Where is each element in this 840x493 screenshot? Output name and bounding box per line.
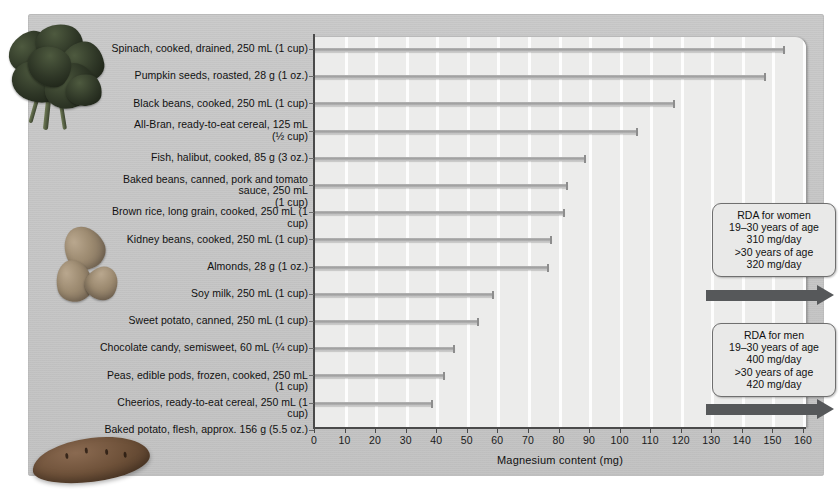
x-tick-label: 50 — [461, 434, 473, 446]
bar — [314, 374, 445, 378]
bar — [314, 48, 785, 52]
y-tick — [309, 212, 314, 213]
bar — [314, 130, 638, 134]
x-tick-label: 40 — [430, 434, 442, 446]
bar — [314, 157, 586, 161]
gridline — [497, 37, 500, 427]
x-tick — [681, 427, 682, 433]
x-tick — [497, 427, 498, 433]
bar-end-cap — [431, 400, 433, 408]
x-tick-label: 90 — [583, 434, 595, 446]
rda-women-arrow — [706, 285, 834, 305]
bar-end-cap — [764, 73, 766, 81]
category-label: Peas, edible pods, frozen, cooked, 250 m… — [96, 370, 308, 393]
x-tick-label: 160 — [794, 434, 812, 446]
x-tick — [375, 427, 376, 433]
x-tick-label: 120 — [672, 434, 690, 446]
category-label: Fish, halibut, cooked, 85 g (3 oz.) — [96, 152, 308, 164]
x-tick — [436, 427, 437, 433]
x-tick — [620, 427, 621, 433]
category-label: Almonds, 28 g (1 oz.) — [96, 261, 308, 273]
y-tick — [309, 185, 314, 186]
gridline — [559, 37, 562, 427]
bar — [314, 102, 675, 106]
y-axis-line — [313, 34, 315, 428]
y-tick — [309, 239, 314, 240]
bar — [314, 320, 479, 324]
magnesium-content-figure: 0102030405060708090100110120130140150160… — [0, 0, 840, 493]
callout-rda-women: RDA for women 19–30 years of age 310 mg/… — [712, 203, 836, 277]
bar — [314, 238, 552, 242]
category-label: Baked beans, canned, pork and tomato sau… — [96, 174, 308, 209]
x-tick — [711, 427, 712, 433]
y-tick — [309, 375, 314, 376]
x-tick — [650, 427, 651, 433]
bar-end-cap — [492, 291, 494, 299]
gridline — [681, 37, 684, 427]
x-tick — [559, 427, 560, 433]
x-tick — [772, 427, 773, 433]
category-label: Sweet potato, canned, 250 mL (1 cup) — [96, 315, 308, 327]
x-tick-label: 150 — [763, 434, 781, 446]
gridline — [345, 37, 348, 427]
x-tick — [803, 427, 804, 433]
category-label: Cheerios, ready-to-eat cereal, 250 mL (1… — [96, 397, 308, 420]
spinach-photo — [6, 22, 110, 132]
y-tick — [309, 158, 314, 159]
gridline — [375, 37, 378, 427]
x-tick-label: 80 — [552, 434, 564, 446]
y-tick — [309, 131, 314, 132]
y-tick — [309, 430, 314, 431]
bar-end-cap — [584, 155, 586, 163]
x-tick — [528, 427, 529, 433]
category-label: Black beans, cooked, 250 mL (1 cup) — [96, 98, 308, 110]
y-tick — [309, 403, 314, 404]
y-tick — [309, 321, 314, 322]
callout-rda-men: RDA for men 19–30 years of age 400 mg/da… — [712, 323, 836, 397]
gridline — [528, 37, 531, 427]
category-label: Soy milk, 250 mL (1 cup) — [96, 288, 308, 300]
x-tick — [345, 427, 346, 433]
sweet-potato-photo — [24, 432, 156, 490]
gridline — [467, 37, 470, 427]
x-tick-label: 110 — [642, 434, 659, 446]
y-tick — [309, 294, 314, 295]
y-tick — [309, 267, 314, 268]
x-tick — [314, 427, 315, 433]
gridline — [589, 37, 592, 427]
gridline — [650, 37, 653, 427]
category-label: Spinach, cooked, drained, 250 mL (1 cup) — [96, 43, 308, 55]
y-tick — [309, 348, 314, 349]
category-label: Brown rice, long grain, cooked, 250 mL (… — [96, 206, 308, 229]
bar-end-cap — [453, 345, 455, 353]
x-tick-label: 100 — [611, 434, 629, 446]
bar-end-cap — [783, 46, 785, 54]
bar — [314, 347, 455, 351]
bar — [314, 184, 568, 188]
bar-end-cap — [477, 318, 479, 326]
category-label: Baked potato, flesh, approx. 156 g (5.5 … — [96, 424, 308, 436]
bar-end-cap — [547, 264, 549, 272]
y-tick — [309, 76, 314, 77]
category-labels: Spinach, cooked, drained, 250 mL (1 cup)… — [96, 0, 308, 430]
gridline — [406, 37, 409, 427]
x-tick-label: 140 — [733, 434, 751, 446]
category-label: Pumpkin seeds, roasted, 28 g (1 oz.) — [96, 70, 308, 82]
x-axis-title: Magnesium content (mg) — [314, 454, 806, 466]
category-label: Chocolate candy, semisweet, 60 mL (¼ cup… — [96, 342, 308, 354]
y-tick — [309, 103, 314, 104]
x-tick — [589, 427, 590, 433]
bar-end-cap — [443, 372, 445, 380]
bar-end-cap — [550, 236, 552, 244]
bar — [314, 211, 565, 215]
bar — [314, 402, 433, 406]
x-tick-label: 0 — [311, 434, 317, 446]
bar — [314, 266, 549, 270]
bar — [314, 75, 766, 79]
x-tick — [406, 427, 407, 433]
bar-end-cap — [673, 100, 675, 108]
x-tick — [467, 427, 468, 433]
x-axis-line — [313, 427, 806, 429]
x-tick-label: 130 — [702, 434, 720, 446]
x-tick-label: 20 — [369, 434, 381, 446]
